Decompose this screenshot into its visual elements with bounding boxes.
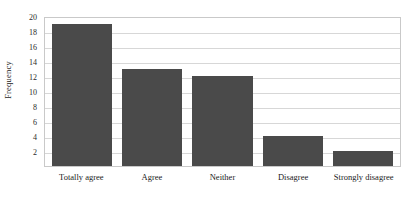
x-tick-label: Strongly disagree xyxy=(328,170,399,190)
bar[interactable] xyxy=(52,24,112,167)
bar[interactable] xyxy=(333,151,393,166)
bar[interactable] xyxy=(263,136,323,166)
bar-slot xyxy=(187,18,257,166)
y-tick-label: 6 xyxy=(33,118,37,127)
bars-layer xyxy=(45,18,400,166)
y-tick-label: 8 xyxy=(33,103,37,112)
bar[interactable] xyxy=(122,69,182,167)
x-tick-label: Totally agree xyxy=(46,170,117,190)
y-tick-label: 14 xyxy=(29,58,37,67)
y-tick-label: 20 xyxy=(29,13,37,22)
bar-chart-figure: Frequency 2468101214161820 Totally agree… xyxy=(0,0,415,198)
bar[interactable] xyxy=(192,76,252,166)
plot-area xyxy=(44,17,401,167)
x-axis-tick-labels: Totally agreeAgreeNeitherDisagreeStrongl… xyxy=(44,170,401,190)
y-tick-label: 4 xyxy=(33,133,37,142)
y-tick-label: 16 xyxy=(29,43,37,52)
bar-slot xyxy=(328,18,398,166)
x-tick-label: Neither xyxy=(187,170,258,190)
x-tick-label: Agree xyxy=(117,170,188,190)
y-tick-label: 12 xyxy=(29,73,37,82)
y-tick-label: 18 xyxy=(29,28,37,37)
bar-slot xyxy=(258,18,328,166)
y-axis-tick-labels: 2468101214161820 xyxy=(14,17,40,167)
y-tick-label: 10 xyxy=(29,88,37,97)
bar-slot xyxy=(117,18,187,166)
y-axis-title-text: Frequency xyxy=(3,61,13,99)
x-tick-label: Disagree xyxy=(258,170,329,190)
y-tick-label: 2 xyxy=(33,148,37,157)
bar-slot xyxy=(47,18,117,166)
